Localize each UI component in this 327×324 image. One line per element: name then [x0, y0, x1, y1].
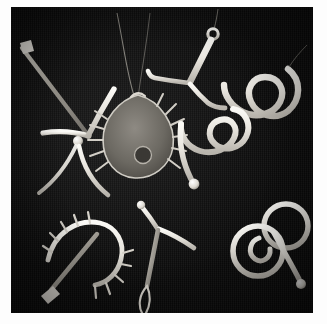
spring-rod-handle [41, 286, 60, 304]
shield-central-aperture [135, 147, 152, 164]
shield-body [103, 95, 173, 178]
specimen-double-coil-iud [233, 204, 308, 289]
monofilament-thread-right [138, 13, 150, 97]
eyelet-thread [214, 9, 218, 29]
iud-left-arm [43, 132, 89, 136]
specimen-copper-t-iud-with-thread-loop [137, 201, 194, 313]
loop-thread-large [289, 45, 307, 67]
inserter-rod-handle [20, 40, 34, 54]
specimen-illustration-layer [11, 7, 313, 313]
specimen-t-shaped-iud-with-eyelet [148, 9, 225, 108]
monofilament-thread-left [117, 13, 135, 99]
copper-t-right-arm [159, 229, 194, 248]
specimen-lippes-loop-double-s-large [224, 45, 307, 116]
copper-t-left-arm [142, 207, 157, 228]
double-s-loop-body-small [181, 109, 248, 152]
specimen-omega-arc-iud [39, 136, 108, 195]
specimen-shield-iud-with-lateral-spines [88, 13, 187, 178]
iud-vertical-stem [190, 40, 211, 82]
loop-ball-tip-small [189, 179, 200, 190]
arc-limb-left [39, 146, 76, 193]
specimen-lippes-loop-double-s-small [180, 109, 248, 189]
copper-t-thread-loop [140, 286, 150, 313]
copper-t-left-arm-tip [137, 201, 145, 209]
iud-left-arm [148, 71, 189, 83]
coil-upper-ring [264, 204, 308, 248]
arc-limb-right [79, 146, 108, 195]
specimen-barbed-spring-iud-with-rod [41, 212, 133, 304]
iud-lower-limb [190, 84, 225, 108]
spring-arc-body [48, 222, 122, 285]
specimen-t-shaped-iud-with-inserter-rod [20, 40, 114, 136]
iud-specimen-photograph [11, 7, 313, 313]
coil-ball-tip [296, 279, 306, 289]
copper-t-stem [147, 230, 158, 286]
coil-stem [274, 233, 299, 279]
inserter-rod-shaft [22, 48, 88, 135]
page-root: T-shaped IUD with straight inserter rod … [0, 0, 327, 324]
